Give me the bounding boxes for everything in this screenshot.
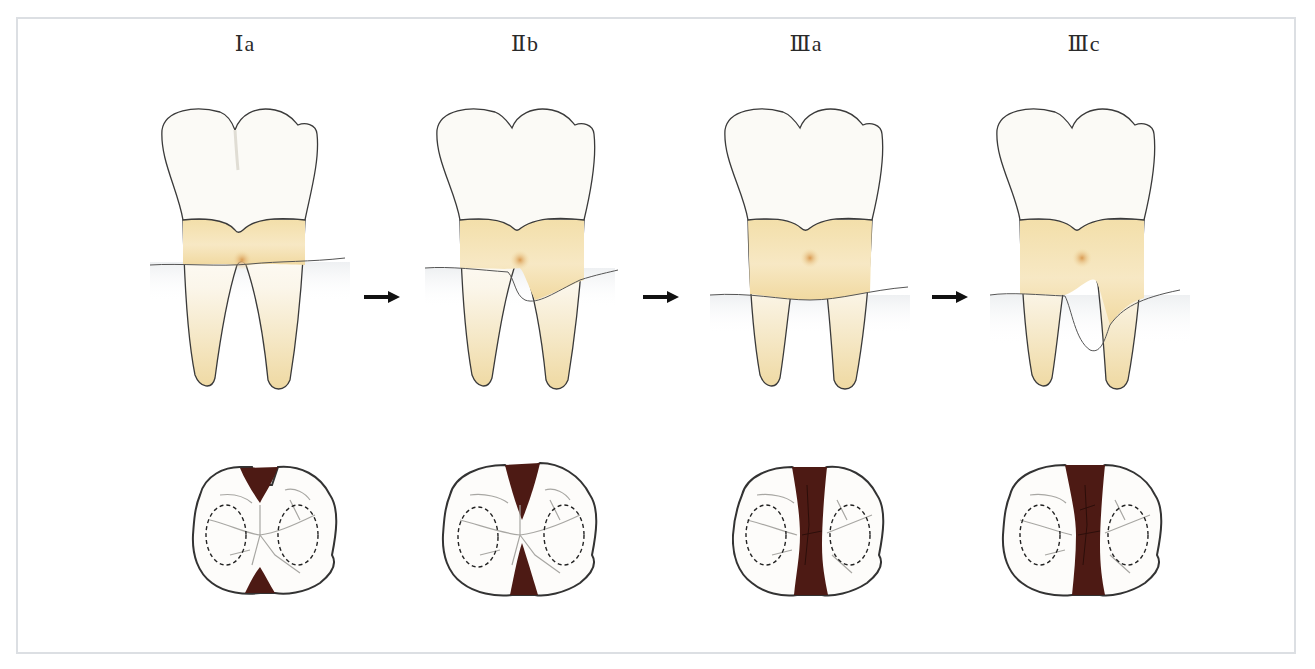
progression-arrow-2: [643, 290, 683, 304]
tooth-occlusal-3c: [1000, 455, 1170, 605]
progression-arrow-1: [364, 290, 404, 304]
tooth-occlusal-3a: [732, 455, 892, 605]
stage-label-3a: Ⅲa: [746, 31, 866, 57]
stage-label-1a: Ⅰa: [185, 31, 305, 57]
tooth-lateral-2b: [420, 100, 620, 400]
tooth-occlusal-2b: [440, 455, 610, 605]
stage-label-3c: Ⅲc: [1024, 31, 1144, 57]
tooth-lateral-1a: [140, 100, 370, 400]
tooth-lateral-3c: [980, 100, 1200, 400]
tooth-lateral-3a: [700, 100, 920, 400]
tooth-occlusal-1a: [190, 455, 350, 605]
stage-label-2b: Ⅱb: [465, 31, 585, 57]
progression-arrow-3: [932, 290, 972, 304]
